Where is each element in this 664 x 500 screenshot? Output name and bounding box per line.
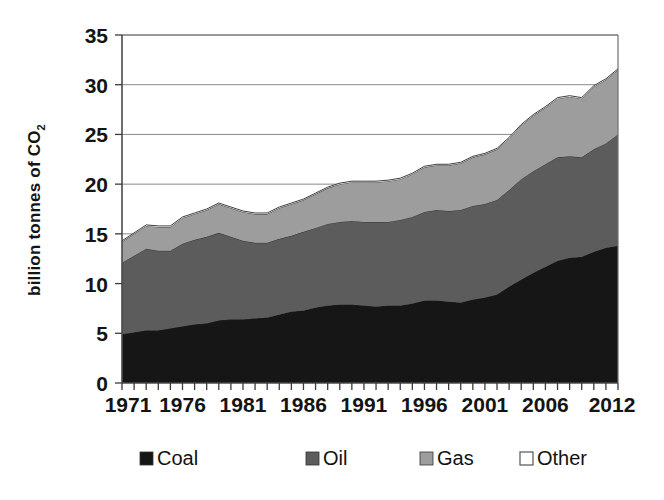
x-tick-label: 2006 xyxy=(522,393,569,416)
stacked-area-chart: 05101520253035 1971197619811986199119962… xyxy=(0,0,664,500)
legend-label: Oil xyxy=(323,447,347,469)
x-tick-label: 1996 xyxy=(401,393,448,416)
legend-swatch-coal-icon xyxy=(140,452,153,465)
y-axis-label-text: billion tonnes of CO2 xyxy=(25,124,47,296)
x-tick-label: 1986 xyxy=(280,393,327,416)
x-tick-label: 1976 xyxy=(159,393,206,416)
chart-container: 05101520253035 1971197619811986199119962… xyxy=(0,0,664,500)
x-tick-label: 1971 xyxy=(105,393,152,416)
legend-label: Other xyxy=(537,447,587,469)
y-tick-label: 5 xyxy=(96,322,108,345)
y-axis-label: billion tonnes of CO2 xyxy=(25,124,47,296)
y-tick-label: 35 xyxy=(85,24,109,47)
legend-label: Coal xyxy=(157,447,198,469)
y-tick-label: 10 xyxy=(85,273,108,296)
legend-swatch-other-icon xyxy=(520,452,533,465)
x-tick-label: 2001 xyxy=(462,393,509,416)
y-tick-label: 25 xyxy=(85,123,109,146)
x-tick-label: 2012 xyxy=(589,393,636,416)
x-tick-label: 1991 xyxy=(341,393,388,416)
y-tick-label: 0 xyxy=(96,372,108,395)
legend-swatch-oil-icon xyxy=(306,452,319,465)
legend-swatch-gas-icon xyxy=(420,452,433,465)
x-tick-label: 1981 xyxy=(220,393,267,416)
legend-label: Gas xyxy=(437,447,474,469)
y-tick-label: 15 xyxy=(85,223,109,246)
y-tick-label: 20 xyxy=(85,173,108,196)
y-tick-label: 30 xyxy=(85,74,108,97)
